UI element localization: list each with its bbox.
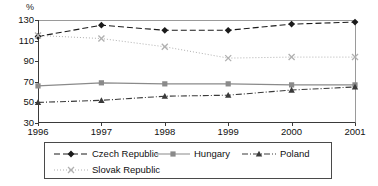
- data-point-marker: [352, 54, 358, 60]
- y-axis-tick-label: 90: [2, 56, 34, 66]
- data-point-marker: [68, 151, 75, 158]
- x-axis-tick-label: 1998: [143, 126, 187, 137]
- data-point-marker: [170, 151, 175, 156]
- data-point-marker: [352, 19, 359, 26]
- data-point-marker: [289, 54, 295, 60]
- series-poland: [35, 84, 358, 105]
- series-czech-republic: [35, 19, 359, 40]
- y-axis-tick-label: 70: [2, 77, 34, 87]
- data-point-marker: [99, 80, 104, 85]
- y-axis-tick-mark: [35, 20, 39, 21]
- data-point-marker: [162, 81, 167, 86]
- legend-item-slovak-republic[interactable]: Slovak Republic: [53, 163, 160, 177]
- data-point-marker: [98, 22, 105, 29]
- line-chart: % Czech RepublicHungaryPolandSlovak Repu…: [0, 0, 378, 186]
- data-point-marker: [98, 36, 104, 42]
- chart-legend: Czech RepublicHungaryPolandSlovak Republ…: [44, 142, 332, 179]
- x-axis-tick-mark: [355, 123, 356, 126]
- legend-label: Czech Republic: [92, 148, 159, 160]
- data-point-marker: [35, 83, 40, 88]
- data-point-marker: [226, 81, 231, 86]
- x-axis-tick-mark: [38, 123, 39, 126]
- data-point-marker: [288, 21, 295, 28]
- legend-swatch-triangle-icon: [241, 148, 277, 160]
- legend-swatch-diamond-icon: [53, 148, 89, 160]
- series-hungary: [35, 80, 357, 88]
- legend-item-poland[interactable]: Poland: [241, 147, 310, 161]
- legend-label: Slovak Republic: [92, 164, 160, 176]
- x-axis-tick-label: 1997: [79, 126, 123, 137]
- series-line: [38, 35, 355, 58]
- series-slovak-republic: [35, 32, 358, 61]
- legend-swatch-x-icon: [53, 164, 89, 176]
- legend-item-hungary[interactable]: Hungary: [155, 147, 230, 161]
- x-axis-tick-label: 2000: [270, 126, 314, 137]
- legend-item-czech-republic[interactable]: Czech Republic: [53, 147, 159, 161]
- data-point-marker: [98, 97, 104, 103]
- series-line: [38, 87, 355, 102]
- x-axis-tick-label: 1996: [16, 126, 60, 137]
- series-line: [38, 83, 355, 86]
- y-axis-tick-label: 110: [2, 36, 34, 46]
- series-layer: [38, 20, 356, 123]
- y-axis-tick-mark: [35, 102, 39, 103]
- legend-swatch-square-icon: [155, 148, 191, 160]
- legend-label: Hungary: [194, 148, 230, 160]
- x-axis-tick-label: 1999: [206, 126, 250, 137]
- x-axis-tick-label: 2001: [333, 126, 377, 137]
- legend-label: Poland: [280, 148, 310, 160]
- y-axis-tick-label: 130: [2, 15, 34, 25]
- y-axis-tick-mark: [35, 82, 39, 83]
- y-axis-unit-label: %: [26, 2, 34, 12]
- y-axis-tick-label: 50: [2, 97, 34, 107]
- y-axis-tick-mark: [35, 41, 39, 42]
- data-point-marker: [161, 27, 168, 34]
- x-axis-tick-mark: [165, 123, 166, 126]
- data-point-marker: [225, 27, 232, 34]
- y-axis-tick-mark: [35, 61, 39, 62]
- data-point-marker: [35, 33, 42, 40]
- data-point-marker: [289, 82, 294, 87]
- x-axis-tick-mark: [228, 123, 229, 126]
- x-axis-tick-mark: [292, 123, 293, 126]
- data-point-marker: [68, 167, 74, 173]
- x-axis-tick-mark: [101, 123, 102, 126]
- series-line: [38, 22, 355, 36]
